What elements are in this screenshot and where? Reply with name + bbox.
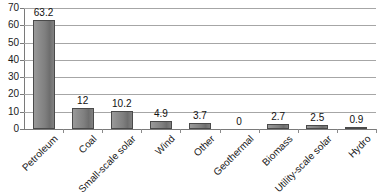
bar-value-label: 2.7 [271, 112, 285, 122]
bar-value-label: 12 [77, 96, 88, 106]
bar-value-label: 4.9 [154, 109, 168, 119]
bar-small-scale-solar[interactable] [111, 111, 133, 129]
y-tickmark-10 [20, 112, 24, 113]
y-tick-label-40: 40 [8, 55, 19, 65]
bar-wind[interactable] [150, 121, 172, 129]
bar-value-label: 3.7 [193, 111, 207, 121]
y-tick-label-10: 10 [8, 107, 19, 117]
x-axis-category-labels: PetroleumCoalSmall-scale solarWindOtherG… [24, 133, 376, 193]
y-tickmark-60 [20, 25, 24, 26]
bar-series: 63.21210.24.93.702.72.50.9 [24, 8, 376, 129]
y-tickmark-40 [20, 60, 24, 61]
bar-slot: 10.2 [102, 8, 141, 129]
bar-slot: 2.7 [259, 8, 298, 129]
y-tick-label-0: 0 [13, 124, 19, 134]
y-tick-label-30: 30 [8, 72, 19, 82]
x-category-label-petroleum: Petroleum [20, 133, 60, 173]
y-tickmark-70 [20, 8, 24, 9]
y-tick-label-50: 50 [8, 38, 19, 48]
bar-value-label: 10.2 [112, 99, 131, 109]
x-category-label-coal: Coal [76, 133, 98, 155]
y-tickmark-0 [20, 129, 24, 130]
x-category-label-other: Other [191, 133, 216, 158]
bar-slot: 2.5 [298, 8, 337, 129]
y-tickmark-30 [20, 77, 24, 78]
bar-value-label: 0 [236, 117, 242, 127]
bar-value-label: 0.9 [349, 115, 363, 125]
x-tickmark [376, 129, 377, 133]
bar-slot: 4.9 [141, 8, 180, 129]
bar-chart: 010203040506070 63.21210.24.93.702.72.50… [0, 0, 380, 193]
y-tickmark-50 [20, 43, 24, 44]
bar-slot: 3.7 [180, 8, 219, 129]
x-category-label-biomass: Biomass [260, 133, 295, 168]
y-tick-label-20: 20 [8, 89, 19, 99]
bar-slot: 63.2 [24, 8, 63, 129]
x-category-label-hydro: Hydro [346, 133, 373, 160]
bar-slot: 0.9 [337, 8, 376, 129]
x-category-label-wind: Wind [153, 133, 177, 157]
bar-value-label: 63.2 [34, 8, 53, 18]
bar-value-label: 2.5 [310, 113, 324, 123]
y-axis-tick-labels: 010203040506070 [0, 0, 22, 132]
chart-title [0, 0, 380, 3]
bar-slot: 12 [63, 8, 102, 129]
plot-area: 63.21210.24.93.702.72.50.9 [24, 8, 376, 129]
y-tickmark-20 [20, 94, 24, 95]
y-tick-label-70: 70 [8, 3, 19, 13]
y-tick-label-60: 60 [8, 20, 19, 30]
bar-petroleum[interactable] [33, 20, 55, 129]
bar-coal[interactable] [72, 108, 94, 129]
bar-slot: 0 [220, 8, 259, 129]
x-category-label-geothermal: Geothermal [211, 133, 256, 178]
